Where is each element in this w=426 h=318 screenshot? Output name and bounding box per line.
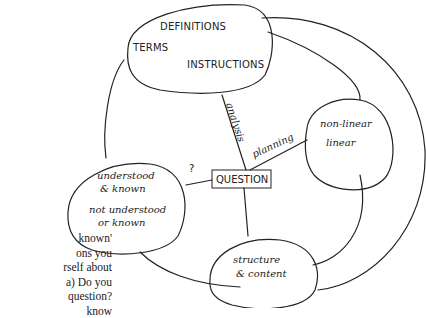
node-right-line-1: non-linear bbox=[320, 118, 373, 129]
node-right-line-2: linear bbox=[326, 137, 357, 148]
node-left-line-3: not understood bbox=[89, 204, 166, 215]
outer-arc-bottom-left bbox=[140, 252, 240, 287]
outer-arc-middle bbox=[268, 32, 360, 100]
side-line-6: know bbox=[0, 304, 112, 318]
side-line-5: question? bbox=[0, 289, 112, 304]
node-bottom-line-1: structure bbox=[233, 254, 280, 265]
side-line-3: rself about bbox=[0, 260, 112, 275]
node-bottom-line-2: & content bbox=[236, 268, 288, 279]
node-left-line-2: & known bbox=[100, 183, 146, 194]
node-top-line-1: DEFINITIONS bbox=[160, 21, 226, 32]
side-paragraph: known' ons you rself about a) Do you que… bbox=[0, 231, 112, 318]
edge-bottom-center bbox=[244, 188, 248, 236]
question-label: QUESTION bbox=[216, 174, 268, 185]
edge-left-center bbox=[186, 180, 212, 185]
side-line-4: a) Do you bbox=[0, 275, 112, 290]
outer-arc-right bbox=[262, 18, 425, 290]
edge-label-planning: planning bbox=[250, 131, 295, 160]
edge-label-question-mark: ? bbox=[189, 163, 194, 174]
outer-arc-left bbox=[105, 60, 124, 158]
node-left-line-1: understood bbox=[97, 170, 155, 181]
side-line-2: ons you bbox=[0, 246, 112, 261]
node-left-line-4: or known bbox=[98, 217, 146, 228]
node-top-line-2: TERMS bbox=[132, 42, 168, 53]
edge-label-analysis: analysis bbox=[224, 101, 247, 143]
node-top-line-3: INSTRUCTIONS bbox=[187, 59, 264, 70]
side-line-1: known' bbox=[0, 231, 112, 246]
